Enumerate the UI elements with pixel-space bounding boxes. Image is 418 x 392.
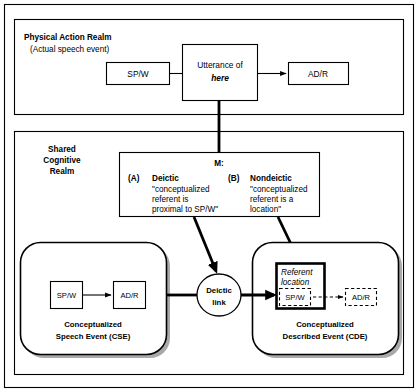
meaning-b-title: Nondeictic bbox=[250, 174, 292, 183]
meaning-b-line2: referent is a bbox=[250, 195, 294, 204]
diagram-canvas: Physical Action Realm (Actual speech eve… bbox=[0, 0, 418, 392]
physical-realm-subtitle: (Actual speech event) bbox=[30, 45, 109, 54]
shared-realm-title-line1: Shared bbox=[48, 145, 76, 154]
cse-addressee-label: AD/R bbox=[120, 291, 139, 300]
meaning-b-marker: (B) bbox=[228, 174, 240, 183]
utterance-label-line1: Utterance of bbox=[197, 60, 243, 70]
deictic-link-label-line1: Deictic bbox=[206, 286, 232, 295]
meaning-a-line1: "conceptualized bbox=[152, 185, 210, 194]
meaning-b-line1: "conceptualized bbox=[250, 185, 308, 194]
meaning-label: M: bbox=[214, 159, 224, 168]
utterance-label-line2: here bbox=[211, 73, 229, 83]
meaning-a-marker: (A) bbox=[128, 174, 140, 183]
physical-addressee-label: AD/R bbox=[308, 69, 328, 79]
shared-realm-title-line3: Realm bbox=[50, 167, 75, 176]
physical-realm-title: Physical Action Realm bbox=[24, 33, 112, 42]
cse-speaker-label: SP/W bbox=[57, 291, 77, 300]
referent-label-line1: Referent bbox=[281, 268, 313, 277]
meaning-a-title: Deictic bbox=[152, 174, 179, 183]
deictic-link-label-line2: link bbox=[212, 298, 226, 307]
cse-caption-line2: Speech Event (CSE) bbox=[56, 332, 131, 341]
cde-caption-line1: Conceptualized bbox=[296, 320, 354, 329]
cse-caption-line1: Conceptualized bbox=[64, 320, 122, 329]
cde-speaker-label: SP/W bbox=[285, 293, 305, 302]
deictic-link-node bbox=[197, 274, 241, 316]
shared-realm-title-line2: Cognitive bbox=[43, 156, 81, 165]
meaning-a-line2: referent is bbox=[152, 195, 188, 204]
cde-caption-line2: Described Event (CDE) bbox=[283, 332, 368, 341]
figure-container: Physical Action Realm (Actual speech eve… bbox=[0, 0, 418, 392]
deictic-branch-arrow bbox=[194, 217, 216, 271]
cde-addressee-label: AD/R bbox=[352, 293, 371, 302]
referent-label-line2: location bbox=[281, 278, 310, 287]
meaning-a-line3: proximal to SP/W" bbox=[152, 205, 218, 214]
physical-speaker-label: SP/W bbox=[127, 69, 148, 79]
meaning-b-line3: location" bbox=[250, 205, 281, 214]
